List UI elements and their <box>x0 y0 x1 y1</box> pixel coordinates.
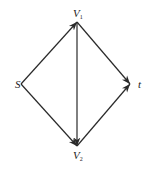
node-label-V1: V1 <box>73 7 83 20</box>
node-label-t: t <box>138 78 142 90</box>
edge-V1-to-t <box>77 22 130 84</box>
edges <box>21 22 130 146</box>
node-label-S: S <box>15 78 21 90</box>
edge-S-to-V2 <box>21 84 77 146</box>
node-label-V2: V2 <box>73 149 83 162</box>
node-labels: SV1V2t <box>15 7 142 162</box>
edge-V2-to-t <box>77 84 130 146</box>
edge-S-to-V1 <box>21 22 77 84</box>
flow-network-diagram: SV1V2t <box>0 0 150 170</box>
